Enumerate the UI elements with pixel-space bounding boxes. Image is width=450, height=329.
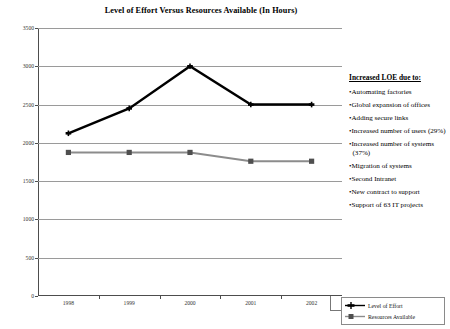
side-note-text: Increased number of systems (37%) bbox=[351, 140, 434, 157]
data-point-1-1 bbox=[127, 150, 132, 155]
side-note-item: •Adding secure links bbox=[349, 114, 447, 123]
y-tick-label-3500: 3500 bbox=[23, 25, 34, 31]
side-note-item: •Global expansion of offices bbox=[349, 101, 447, 110]
y-tick-label-1500: 1500 bbox=[23, 178, 34, 184]
side-note-text: Automating factories bbox=[351, 88, 411, 96]
side-note-text: Second Intranet bbox=[351, 175, 396, 183]
y-tick-label-1000: 1000 bbox=[23, 216, 34, 222]
legend-swatch-resources-available bbox=[345, 312, 365, 321]
legend-item-resources-available[interactable]: Resources Available bbox=[345, 311, 441, 322]
data-point-1-2 bbox=[187, 150, 192, 155]
side-note-item: •Second Intranet bbox=[349, 175, 447, 184]
side-note-item: •Increased number of users (29%) bbox=[349, 127, 447, 136]
x-tick-mark-4 bbox=[281, 296, 282, 299]
x-tick-label-2001: 2001 bbox=[245, 300, 256, 306]
x-tick-label-1998: 1998 bbox=[63, 300, 74, 306]
side-note-item: •Migration of systems bbox=[349, 162, 447, 171]
x-tick-label-2002: 2002 bbox=[306, 300, 317, 306]
legend-connector-vertical bbox=[330, 296, 331, 311]
side-note-text: Global expansion of offices bbox=[351, 101, 429, 109]
series-line-0 bbox=[68, 66, 311, 133]
x-tick-mark-2 bbox=[160, 296, 161, 299]
side-note-text: Adding secure links bbox=[351, 114, 408, 122]
y-tick-label-2000: 2000 bbox=[23, 140, 34, 146]
chart-title: Level of Effort Versus Resources Availab… bbox=[56, 5, 346, 16]
data-point-1-0 bbox=[66, 150, 71, 155]
side-note-text: Increased number of users (29%) bbox=[351, 127, 445, 135]
side-note-item: •Automating factories bbox=[349, 88, 447, 97]
plot-area: 0500100015002000250030003500 19981999200… bbox=[38, 28, 342, 296]
side-notes: Increased LOE due to: •Automating factor… bbox=[349, 73, 447, 214]
legend-item-level-of-effort[interactable]: Level of Effort bbox=[345, 300, 441, 311]
legend-swatch-level-of-effort bbox=[345, 301, 365, 310]
y-tick-label-0: 0 bbox=[31, 293, 34, 299]
legend-label-resources-available: Resources Available bbox=[368, 314, 415, 320]
y-tick-label-500: 500 bbox=[26, 255, 34, 261]
side-note-text: Migration of systems bbox=[351, 162, 411, 170]
x-tick-mark-3 bbox=[220, 296, 221, 299]
data-point-0-4 bbox=[309, 102, 315, 108]
data-point-1-4 bbox=[309, 159, 314, 164]
data-point-1-3 bbox=[248, 159, 253, 164]
x-tick-label-1999: 1999 bbox=[124, 300, 135, 306]
y-tick-mark-0 bbox=[35, 296, 38, 297]
side-note-item: •Support of 63 IT projects bbox=[349, 201, 447, 210]
side-notes-list: •Automating factories•Global expansion o… bbox=[349, 88, 447, 210]
chart-page: Level of Effort Versus Resources Availab… bbox=[0, 0, 450, 329]
side-notes-heading: Increased LOE due to: bbox=[349, 73, 447, 83]
side-note-item: •Increased number of systems (37%) bbox=[349, 140, 447, 157]
side-note-item: •New contract to support bbox=[349, 188, 447, 197]
series-layer bbox=[38, 28, 342, 296]
chart-legend: Level of Effort Resources Available bbox=[341, 297, 445, 325]
side-note-text: New contract to support bbox=[351, 188, 419, 196]
y-tick-label-2500: 2500 bbox=[23, 102, 34, 108]
side-note-text: Support of 63 IT projects bbox=[351, 201, 423, 209]
legend-label-level-of-effort: Level of Effort bbox=[368, 303, 403, 309]
x-tick-label-2000: 2000 bbox=[184, 300, 195, 306]
x-tick-mark-1 bbox=[99, 296, 100, 299]
y-tick-label-3000: 3000 bbox=[23, 63, 34, 69]
